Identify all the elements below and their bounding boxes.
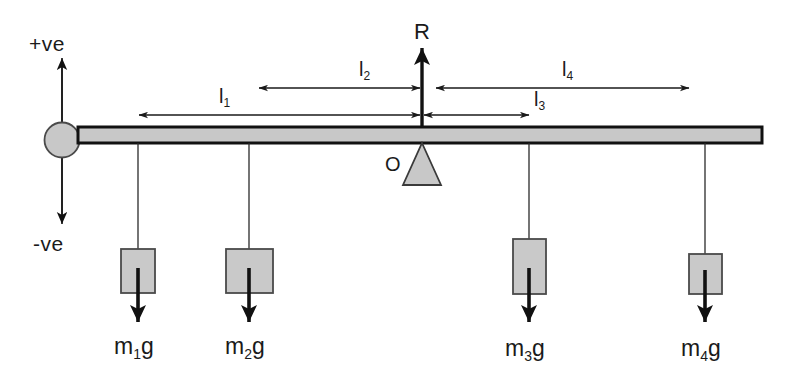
sign-convention-axis — [45, 58, 80, 224]
axis-positive-label: +ve — [29, 33, 65, 54]
weight-m4-symbol: m — [681, 335, 700, 361]
weight-m3-subscript: 3 — [524, 348, 532, 364]
diagram-canvas — [0, 0, 793, 379]
length-l1-subscript: 1 — [223, 96, 230, 110]
reaction-force-label: R — [414, 21, 430, 43]
length-label-l1: l1 — [219, 86, 230, 106]
length-l3-subscript: 3 — [538, 99, 545, 113]
beam — [78, 127, 762, 143]
length-label-l3: l3 — [534, 89, 545, 109]
weight-m3-suffix: g — [532, 335, 545, 361]
length-l4-subscript: 4 — [566, 69, 573, 83]
pivot-label: O — [385, 154, 401, 174]
weight-m1-subscript: 1 — [133, 346, 141, 362]
weight-m1-symbol: m — [114, 333, 133, 359]
weight-label-m1: m1g — [114, 335, 154, 358]
weight-m1-suffix: g — [141, 333, 154, 359]
length-l2-subscript: 2 — [363, 69, 370, 83]
weight-m4-subscript: 4 — [700, 348, 708, 364]
weight-label-m2: m2g — [225, 335, 265, 358]
axis-origin-marker — [45, 123, 80, 158]
weight-m2-suffix: g — [252, 333, 265, 359]
axis-negative-label: -ve — [33, 233, 64, 254]
pivot-triangle — [403, 143, 441, 185]
weight-m4-suffix: g — [708, 335, 721, 361]
length-label-l4: l4 — [562, 59, 573, 79]
length-label-l2: l2 — [359, 59, 370, 79]
beam-moments-diagram: +ve -ve R O l1 l2 l3 l4 m1g m2g m3g m4g — [0, 0, 793, 379]
weight-m2-subscript: 2 — [244, 346, 252, 362]
weight-label-m3: m3g — [505, 337, 545, 360]
weight-m2-symbol: m — [225, 333, 244, 359]
weight-m3-symbol: m — [505, 335, 524, 361]
weight-label-m4: m4g — [681, 337, 721, 360]
